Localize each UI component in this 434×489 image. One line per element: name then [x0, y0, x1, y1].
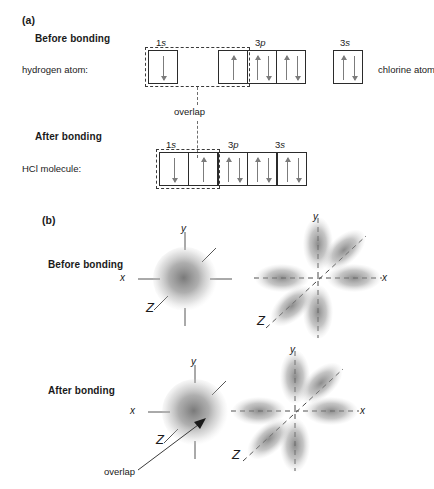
axis-label-z-cl-before: Z: [257, 313, 265, 328]
axis-label-y-cl-before: y: [313, 211, 318, 222]
electron-arrow-up: [343, 56, 344, 80]
orbital-box: [148, 50, 178, 84]
axis-label-y-h-before: y: [181, 223, 186, 234]
orbital-group-label-3p-before: 3p: [255, 37, 266, 48]
axis-label-y-cl-after: y: [290, 344, 295, 355]
orbital-group-label-3s-after: 3s: [275, 139, 285, 150]
electron-arrow-up: [257, 158, 258, 182]
orbital-box: [247, 152, 277, 186]
orbital-group-1s-after: [159, 152, 218, 186]
orbital-group-3p-after: [218, 152, 277, 186]
axis-label-x-h-before: x: [120, 272, 125, 283]
orbital-box: [218, 50, 248, 84]
panel-b-after-stage-label: After bonding: [48, 385, 115, 396]
electron-arrow-down: [239, 158, 240, 182]
orbital-group-3s-after: [277, 152, 307, 186]
orbital-group-3s-before: [333, 50, 363, 84]
electron-arrow-down: [298, 158, 299, 182]
panel-a-after-stage-label: After bonding: [35, 131, 102, 142]
overlap-caption-b: overlap: [104, 466, 135, 477]
axis-label-z-cl-after: Z: [232, 447, 240, 462]
orbital-box: [159, 152, 189, 186]
electron-arrow-down: [354, 56, 355, 80]
electron-arrow-up: [287, 158, 288, 182]
electron-arrow-up: [286, 56, 287, 80]
orbital-box: [333, 50, 363, 84]
axis-label-x-cl-after: x: [360, 405, 365, 416]
electron-arrow-down: [163, 56, 164, 80]
chlorine-atom-label: chlorine atom: [378, 64, 434, 75]
electron-arrow-down: [297, 56, 298, 80]
overlap-caption-a: overlap: [174, 106, 205, 117]
orbital-box: [276, 50, 306, 84]
chlorine-3p-orbital-before: [248, 212, 388, 342]
electron-arrow-up: [228, 158, 229, 182]
electron-arrow-up: [257, 56, 258, 80]
axis-label-y-h-after: y: [191, 356, 196, 367]
orbital-overlap-figure: (a) Before bonding hydrogen atom: chlori…: [0, 0, 434, 489]
overlap-connector-upper: [197, 87, 198, 105]
orbital-box: [218, 152, 248, 186]
hydrogen-1s-orbital-before: [130, 222, 240, 332]
orbital-group-1s-before: [148, 50, 178, 84]
orbital-group-label-3s-before: 3s: [340, 37, 350, 48]
panel-b-before-stage-label: Before bonding: [48, 259, 123, 270]
orbital-box: [247, 50, 277, 84]
chlorine-3p-orbital-after: [225, 345, 365, 475]
hcl-molecule-label: HCl molecule:: [22, 163, 81, 174]
electron-arrow-up: [203, 158, 204, 182]
axis-label-x-cl-before: x: [382, 272, 387, 283]
electron-arrow-down: [174, 158, 175, 182]
electron-arrow-up: [233, 56, 234, 80]
orbital-group-3p-before: [218, 50, 306, 84]
orbital-box: [277, 152, 307, 186]
hydrogen-atom-label: hydrogen atom:: [22, 64, 88, 75]
panel-a-label: (a): [22, 14, 35, 26]
orbital-group-label-3p-after: 3p: [228, 139, 239, 150]
panel-b-label: (b): [42, 214, 56, 226]
electron-arrow-down: [268, 158, 269, 182]
overlap-pointer-arrow: [130, 408, 230, 478]
axis-label-z-h-before: Z: [146, 300, 154, 315]
panel-a-before-stage-label: Before bonding: [35, 33, 110, 44]
orbital-box: [188, 152, 218, 186]
electron-arrow-down: [268, 56, 269, 80]
